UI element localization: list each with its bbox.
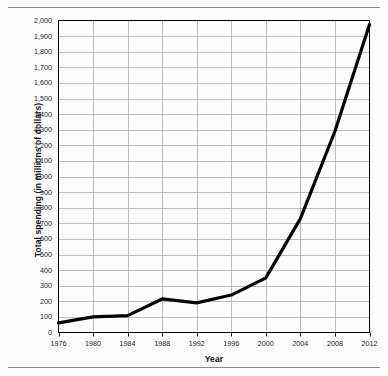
y-tick-label: 1,400 — [18, 110, 52, 119]
y-tick-label: 1,800 — [18, 47, 52, 56]
y-tick-label: 1,700 — [18, 63, 52, 72]
y-tick-label: 2,000 — [18, 16, 52, 25]
y-tick-label: 500 — [18, 250, 52, 259]
x-axis-title: Year — [58, 354, 370, 364]
y-tick-label: 1,300 — [18, 125, 52, 134]
y-tick-label: 100 — [18, 312, 52, 321]
x-tick-label: 2012 — [350, 339, 388, 348]
horizontal-gridlines — [59, 37, 370, 318]
y-tick-label: 200 — [18, 297, 52, 306]
y-tick-label: 400 — [18, 266, 52, 275]
y-tick-label: 1,600 — [18, 78, 52, 87]
y-tick-label: 300 — [18, 281, 52, 290]
y-tick-label: 1,500 — [18, 94, 52, 103]
y-tick-label: 1,100 — [18, 156, 52, 165]
y-tick-label: 600 — [18, 234, 52, 243]
y-tick-label: 1,900 — [18, 32, 52, 41]
y-tick-label: 0 — [18, 328, 52, 337]
line-chart-plot — [0, 0, 388, 376]
chart-figure: Total spending (in millions of dollars) … — [0, 0, 388, 376]
y-tick-label: 800 — [18, 203, 52, 212]
y-tick-label: 1,000 — [18, 172, 52, 181]
y-tick-label: 900 — [18, 188, 52, 197]
spending-data-line — [59, 24, 370, 322]
x-axis-tick-marks — [60, 333, 371, 337]
y-tick-label: 1,200 — [18, 141, 52, 150]
y-tick-label: 700 — [18, 219, 52, 228]
